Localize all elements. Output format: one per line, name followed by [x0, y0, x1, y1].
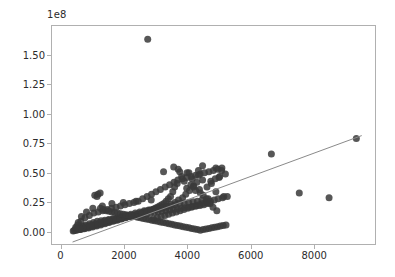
y-tick-label: 0.25	[23, 197, 45, 208]
y-tick-label: 1.25	[23, 79, 45, 90]
y-tick-mark	[47, 232, 51, 233]
scatter-plot-figure: 1e8 0.000.250.500.751.001.251.50 0200040…	[0, 0, 395, 277]
y-tick-label: 0.50	[23, 167, 45, 178]
x-tick-mark	[251, 245, 252, 249]
x-tick-mark	[314, 245, 315, 249]
y-tick-label: 0.75	[23, 138, 45, 149]
x-tick-label: 0	[57, 250, 63, 261]
x-tick-label: 6000	[238, 250, 263, 261]
y-tick-mark	[47, 202, 51, 203]
x-tick-mark	[187, 245, 188, 249]
y-tick-mark	[47, 173, 51, 174]
y-tick-mark	[47, 143, 51, 144]
plot-axes-frame	[51, 25, 376, 245]
y-tick-mark	[47, 55, 51, 56]
y-tick-mark	[47, 84, 51, 85]
y-tick-mark	[47, 114, 51, 115]
x-tick-mark	[61, 245, 62, 249]
y-axis-tick-labels: 0.000.250.500.751.001.251.50	[0, 0, 45, 277]
y-tick-label: 1.50	[23, 49, 45, 60]
x-tick-mark	[124, 245, 125, 249]
x-tick-label: 2000	[111, 250, 136, 261]
y-axis-offset-label: 1e8	[47, 9, 67, 20]
y-tick-label: 1.00	[23, 108, 45, 119]
x-tick-label: 8000	[301, 250, 326, 261]
x-tick-label: 4000	[175, 250, 200, 261]
x-axis-tick-labels: 02000400060008000	[0, 250, 395, 270]
y-tick-label: 0.00	[23, 226, 45, 237]
